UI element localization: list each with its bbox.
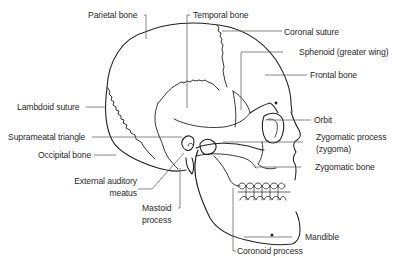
label-mandible: Mandible — [305, 232, 339, 242]
label-coronal-suture: Coronal suture — [284, 27, 339, 37]
zygomatic-bone-outline — [258, 142, 276, 169]
lambdoid-suture-line — [108, 88, 155, 159]
face-outline — [291, 112, 300, 180]
condyle-outline — [200, 139, 216, 154]
label-zygomatic-bone: Zygomatic bone — [315, 162, 375, 172]
label-frontal-bone: Frontal bone — [310, 70, 357, 80]
lower-teeth — [240, 196, 286, 200]
skull-diagram: Parietal bone Temporal bone Coronal sutu… — [0, 0, 395, 258]
label-zygomatic-process-sub: (zygoma) — [316, 144, 351, 154]
orbit-outline — [262, 113, 283, 143]
label-orbit: Orbit — [314, 115, 332, 125]
label-temporal-bone: Temporal bone — [193, 10, 249, 20]
brow-outline — [250, 103, 278, 113]
mental-foramen — [271, 234, 273, 236]
coronal-suture-line — [217, 25, 227, 87]
mastoid-outline — [186, 158, 194, 174]
label-lambdoid-suture: Lambdoid suture — [17, 102, 80, 112]
occipital-outline — [106, 88, 186, 171]
label-mastoid-process: process — [142, 215, 171, 225]
label-mastoid: Mastoid — [142, 203, 171, 213]
upper-teeth — [238, 183, 285, 186]
label-external-auditory: External auditory — [73, 176, 137, 186]
sphenoid-outline — [174, 91, 250, 128]
skull-drawing — [0, 0, 395, 258]
label-parietal-bone: Parietal bone — [88, 10, 137, 20]
cranium-outline — [107, 23, 292, 112]
zygomatic-arch — [196, 143, 264, 150]
label-external-auditory-meatus: meatus — [73, 188, 137, 198]
label-occipital-bone: Occipital bone — [38, 150, 91, 160]
label-sphenoid-greater-wing: Sphenoid (greater wing) — [299, 47, 388, 57]
squamous-suture-line — [158, 80, 219, 103]
label-coronoid-process: Coronoid process — [237, 246, 303, 256]
label-zygomatic-process: Zygomatic process — [316, 132, 386, 142]
label-suprameatal-triangle: Suprameatal triangle — [8, 132, 85, 142]
